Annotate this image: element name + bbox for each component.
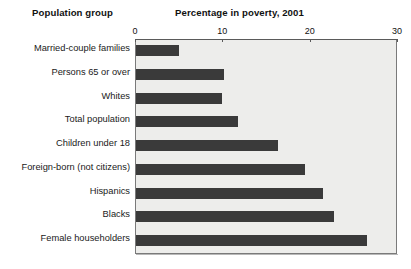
bar-row: Foreign-born (not citizens) (0, 159, 411, 183)
category-label: Female householders (41, 233, 130, 243)
x-tick-mark (135, 39, 136, 42)
bar-row: Blacks (0, 206, 411, 230)
chart-title: Percentage in poverty, 2001 (175, 7, 304, 18)
bar-row: Hispanics (0, 183, 411, 207)
category-label: Persons 65 or over (51, 67, 130, 77)
bar (136, 116, 238, 127)
category-label: Blacks (103, 209, 130, 219)
bar (136, 188, 323, 199)
x-axis-tick-labels: 0102030 (135, 26, 397, 40)
bar (136, 140, 278, 151)
bar (136, 235, 367, 246)
chart-headers: Population group Percentage in poverty, … (0, 7, 411, 23)
x-tick-label: 20 (305, 26, 315, 36)
bar (136, 164, 305, 175)
x-tick-label: 0 (132, 26, 137, 36)
category-label: Hispanics (90, 186, 130, 196)
category-label: Total population (65, 114, 130, 124)
category-label: Whites (102, 91, 130, 101)
bar-row: Children under 18 (0, 135, 411, 159)
bar (136, 69, 224, 80)
bar (136, 211, 334, 222)
x-tick-mark (397, 39, 398, 42)
bar-row: Persons 65 or over (0, 64, 411, 88)
population-group-header: Population group (32, 7, 113, 18)
bar-rows: Married-couple familiesPersons 65 or ove… (0, 40, 411, 254)
poverty-bar-chart-figure: Population group Percentage in poverty, … (0, 0, 411, 269)
bar-row: Female householders (0, 230, 411, 254)
plot-bottom-edge (136, 254, 398, 255)
x-tick-mark (310, 39, 311, 42)
bar-row: Whites (0, 88, 411, 112)
x-tick-mark (222, 39, 223, 42)
category-label: Children under 18 (56, 138, 130, 148)
bar-row: Married-couple families (0, 40, 411, 64)
x-tick-label: 10 (217, 26, 227, 36)
category-label: Foreign-born (not citizens) (21, 162, 130, 172)
bar (136, 93, 222, 104)
x-tick-label: 30 (392, 26, 402, 36)
category-label: Married-couple families (34, 43, 130, 53)
bar-row: Total population (0, 111, 411, 135)
bar (136, 45, 179, 56)
